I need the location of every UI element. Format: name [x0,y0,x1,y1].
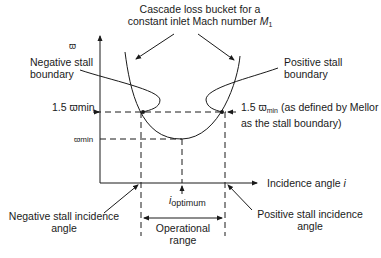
title-label: Cascade loss bucket for a constant inlet… [120,3,280,31]
pos-incidence-label: Positive stall incidence angle [250,208,370,232]
y-axis-label: ϖ [69,40,76,52]
optimum-label: ioptimum [169,194,206,209]
operational-range-label: Operational range [143,222,223,246]
level-1-5-min-label: 1.5 ϖmin [52,101,95,113]
mellor-label: 1.5 ϖmin (as defined by Mellor as the st… [241,101,378,129]
pos-stall-boundary-label: Positive stall boundary [284,56,342,80]
level-min-label: ϖmin [74,134,93,146]
loss-bucket-curve [125,52,240,139]
x-axis-label: Incidence angle i [267,177,346,189]
neg-incidence-label: Negative stall incidence angle [4,210,124,234]
neg-stall-boundary-label: Negative stall boundary [30,56,93,80]
